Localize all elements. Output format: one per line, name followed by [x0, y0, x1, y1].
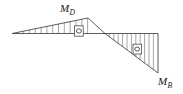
moment-label-md-symbol: M — [60, 2, 69, 14]
left-positive-moment-region — [12, 18, 105, 34]
bending-moment-diagram-svg — [0, 0, 183, 94]
moment-label-md: MD — [60, 3, 75, 14]
right-sign-marker — [133, 44, 141, 54]
right-sign-box — [133, 44, 141, 54]
moment-label-mb: MB — [158, 76, 172, 87]
right-negative-moment-region — [105, 34, 158, 74]
moment-label-mb-subscript: B — [167, 81, 172, 90]
left-sign-box — [75, 26, 84, 36]
left-sign-marker — [75, 26, 84, 36]
bending-moment-figure: MD MB — [0, 0, 183, 94]
moment-label-mb-symbol: M — [158, 75, 167, 87]
moment-label-md-subscript: D — [69, 8, 74, 17]
